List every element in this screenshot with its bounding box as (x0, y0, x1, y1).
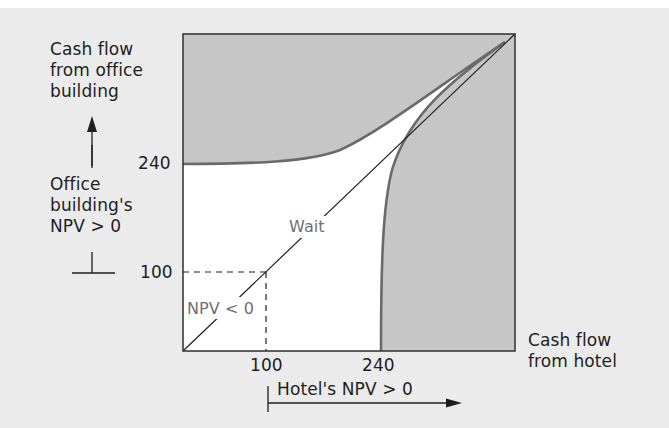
x-arrow-head-icon (446, 399, 462, 408)
y-axis-title-line-3: building (50, 81, 143, 102)
x-tick-100: 100 (250, 355, 283, 376)
y-region-label-line-3: NPV > 0 (50, 216, 133, 237)
y-region-label-line-1: Office (50, 174, 133, 195)
x-axis-title-line-2: from hotel (528, 351, 617, 372)
x-region-label: Hotel's NPV > 0 (277, 379, 413, 400)
y-tick-240: 240 (138, 153, 171, 174)
y-region-label: Office building's NPV > 0 (50, 174, 133, 237)
x-axis-title-line-1: Cash flow (528, 330, 617, 351)
y-tick-100: 100 (140, 262, 173, 283)
npv-negative-region-label: NPV < 0 (187, 298, 254, 319)
y-axis-title-line-2: from office (50, 60, 143, 81)
wait-region-label: Wait (289, 216, 325, 237)
y-arrow-head-icon (87, 116, 97, 132)
x-axis-title: Cash flow from hotel (528, 330, 617, 372)
y-axis-title-line-1: Cash flow (50, 39, 143, 60)
y-region-label-line-2: building's (50, 195, 133, 216)
y-axis-title: Cash flow from office building (50, 39, 143, 102)
x-tick-240: 240 (362, 355, 395, 376)
